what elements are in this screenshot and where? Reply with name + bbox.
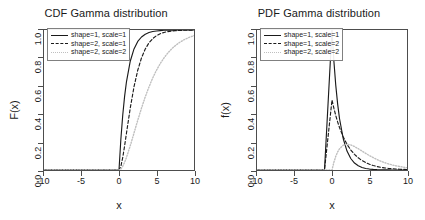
- cdf-xtick-3: 5: [144, 176, 170, 186]
- line-style-dotted-icon: [51, 52, 68, 53]
- panel-cdf: CDF Gamma distribution F(x) 0.0 0.2 0.4 …: [0, 0, 212, 220]
- cdf-ytick-3: 0.6: [33, 86, 43, 106]
- pdf-ytick-1: 0.2: [246, 143, 256, 163]
- pdf-xtick-4: 10: [395, 176, 421, 186]
- cdf-legend-item-1: shape=2, scale=1: [51, 40, 126, 49]
- series-line-1: [257, 100, 407, 170]
- line-style-dashed-icon: [51, 43, 68, 44]
- cdf-legend: shape=1, scale=1 shape=2, scale=1 shape=…: [47, 28, 130, 61]
- pdf-xtickmark-1: [294, 171, 295, 176]
- pdf-ytick-4: 0.8: [246, 57, 256, 77]
- line-style-solid-icon: [264, 35, 281, 36]
- cdf-xtickmark-3: [157, 171, 158, 176]
- cdf-xtick-0: -10: [30, 176, 56, 186]
- cdf-xtickmark-4: [195, 171, 196, 176]
- pdf-legend: shape=1, scale=1 shape=1, scale=2 shape=…: [260, 28, 343, 61]
- pdf-ytick-2: 0.4: [246, 114, 256, 134]
- cdf-legend-label-2: shape=2, scale=2: [71, 48, 126, 57]
- pdf-ytick-3: 0.6: [246, 86, 256, 106]
- pdf-legend-label-0: shape=1, scale=1: [284, 31, 339, 40]
- cdf-legend-label-1: shape=2, scale=1: [71, 40, 126, 49]
- cdf-xtick-2: 0: [106, 176, 132, 186]
- cdf-ytick-4: 0.8: [33, 57, 43, 77]
- pdf-legend-item-2: shape=2, scale=2: [264, 48, 339, 57]
- panel-pdf: PDF Gamma distribution f(x) 0.0 0.2 0.4 …: [213, 0, 425, 220]
- series-line-2: [257, 144, 407, 170]
- line-style-dashed-icon: [264, 43, 281, 44]
- line-style-solid-icon: [51, 35, 68, 36]
- pdf-ytick-5: 1.0: [246, 29, 256, 49]
- panel-cdf-title: CDF Gamma distribution: [0, 7, 212, 19]
- cdf-legend-label-0: shape=1, scale=1: [71, 31, 126, 40]
- pdf-legend-label-2: shape=2, scale=2: [284, 48, 339, 57]
- pdf-xtick-1: -5: [281, 176, 307, 186]
- pdf-xtick-0: -10: [243, 176, 269, 186]
- cdf-xtickmark-2: [119, 171, 120, 176]
- line-style-dotted-icon: [264, 52, 281, 53]
- pdf-xtick-2: 0: [319, 176, 345, 186]
- cdf-ytick-1: 0.2: [33, 143, 43, 163]
- pdf-legend-item-0: shape=1, scale=1: [264, 31, 339, 40]
- cdf-xtickmark-0: [43, 171, 44, 176]
- panel-pdf-title: PDF Gamma distribution: [213, 7, 425, 19]
- cdf-xtick-4: 10: [182, 176, 208, 186]
- pdf-legend-label-1: shape=1, scale=2: [284, 40, 339, 49]
- cdf-legend-item-2: shape=2, scale=2: [51, 48, 126, 57]
- cdf-legend-item-0: shape=1, scale=1: [51, 31, 126, 40]
- pdf-xtickmark-2: [332, 171, 333, 176]
- pdf-xtickmark-3: [370, 171, 371, 176]
- pdf-xtickmark-0: [256, 171, 257, 176]
- pdf-xtickmark-4: [408, 171, 409, 176]
- cdf-xtickmark-1: [81, 171, 82, 176]
- panel-pdf-ylabel: f(x): [219, 102, 231, 118]
- cdf-ytick-2: 0.4: [33, 114, 43, 134]
- panel-cdf-xlabel: x: [43, 199, 195, 211]
- cdf-xtick-1: -5: [68, 176, 94, 186]
- pdf-xtick-3: 5: [357, 176, 383, 186]
- pdf-legend-item-1: shape=1, scale=2: [264, 40, 339, 49]
- cdf-ytick-5: 1.0: [33, 29, 43, 49]
- panel-pdf-xlabel: x: [256, 199, 408, 211]
- figure-canvas: CDF Gamma distribution F(x) 0.0 0.2 0.4 …: [0, 0, 425, 220]
